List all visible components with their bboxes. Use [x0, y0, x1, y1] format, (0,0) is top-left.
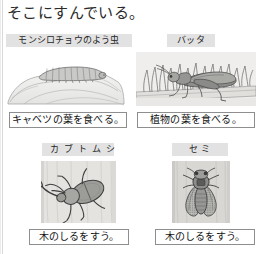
grasshopper-illustration — [136, 52, 256, 106]
cabbage-white-larva-illustration — [6, 52, 126, 106]
page-edge-shadow-inner — [2, 0, 3, 254]
rhinoceros-beetle-illustration — [41, 161, 116, 223]
species-label-monshirochou: モンシロチョウのよう虫 — [6, 34, 132, 47]
caption-monshirochou: キャベツの葉を食べる。 — [9, 112, 127, 128]
caption-batta: 植物の葉を食べる。 — [137, 112, 255, 128]
caption-semi: 木のしるをすう。 — [155, 229, 255, 245]
species-label-kabutomushi: カブトムシ — [42, 143, 114, 156]
cicada-illustration — [172, 161, 230, 223]
page-edge-shadow-outer — [0, 0, 1, 254]
worksheet-page: そこにすんでいる。 モンシロチョウのよう虫 — [0, 0, 262, 254]
caption-kabutomushi: 木のしるをすう。 — [29, 229, 129, 245]
page-title: そこにすんでいる。 — [7, 3, 145, 22]
species-label-batta: バッタ — [167, 34, 215, 47]
species-label-semi: セ ミ — [172, 143, 228, 156]
